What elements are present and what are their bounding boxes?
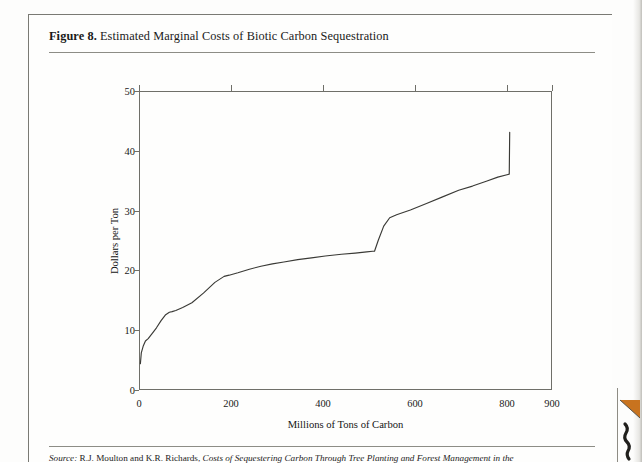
x-tick-label: 200 [223,398,239,409]
x-tick-mark [415,85,416,91]
x-tick-mark [139,85,140,91]
figure-box: Figure 8. Estimated Marginal Costs of Bi… [28,14,612,462]
x-tick-mark [231,85,232,91]
source-divider-rule [49,446,595,447]
x-tick-label: 900 [544,398,560,409]
page-edge-shadow [633,0,642,462]
page-edge-line [617,388,618,462]
x-tick-label: 600 [407,398,423,409]
source-title-italic: Costs of Sequestering Carbon Through Tre… [203,453,514,463]
x-tick-label: 400 [315,398,331,409]
data-series-line [140,132,509,363]
figure-title: Figure 8. Estimated Marginal Costs of Bi… [49,29,389,44]
y-tick-mark [134,330,139,331]
chart-plot-area: 01020304050 0200400600800900 Millions of… [139,91,552,390]
y-tick-mark [134,270,139,271]
source-authors: R.J. Moulton and K.R. Richards, [77,453,202,463]
x-axis-label: Millions of Tons of Carbon [288,419,404,430]
x-tick-label: 0 [136,398,141,409]
y-axis-label: Dollars per Ton [109,207,120,273]
y-tick-mark [134,211,139,212]
source-label: Source: [49,453,77,463]
figure-label: Figure 8. [49,29,97,43]
page-curl-artifact [616,398,642,462]
x-tick-mark [507,85,508,91]
chart-line-svg [139,91,552,390]
x-tick-mark [323,85,324,91]
y-tick-mark [134,91,139,92]
figure-title-text: Estimated Marginal Costs of Biotic Carbo… [97,29,389,43]
title-divider-rule [49,52,595,53]
x-tick-label: 800 [499,398,515,409]
y-tick-mark [134,151,139,152]
y-tick-mark [134,390,139,391]
x-tick-mark [552,85,553,91]
figure-source: Source: R.J. Moulton and K.R. Richards, … [49,453,514,465]
